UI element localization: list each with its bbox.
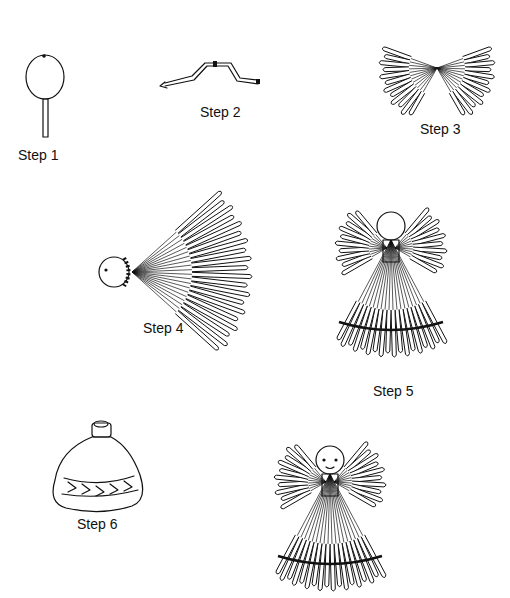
step3-label: Step 3 bbox=[420, 121, 460, 137]
step6-label: Step 6 bbox=[77, 516, 117, 532]
step6-illustration bbox=[53, 421, 143, 512]
step4-label: Step 4 bbox=[143, 320, 183, 336]
step3-illustration bbox=[379, 47, 494, 115]
step5-label: Step 5 bbox=[373, 383, 413, 399]
step2-illustration bbox=[160, 61, 260, 88]
step1-illustration bbox=[26, 54, 64, 137]
step1-label: Step 1 bbox=[18, 147, 58, 163]
final-angel-illustration bbox=[274, 442, 386, 591]
illustrations bbox=[0, 0, 510, 598]
instruction-diagram: Step 1 Step 2 Step 3 Step 4 Step 5 Step … bbox=[0, 0, 510, 598]
step5-illustration bbox=[335, 208, 447, 357]
step2-label: Step 2 bbox=[200, 104, 240, 120]
